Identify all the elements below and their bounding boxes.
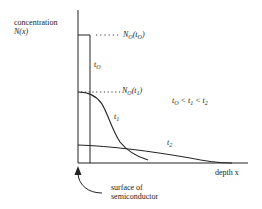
y-axis-label-line1: concentration	[14, 18, 58, 27]
y-axis-label: concentration N(x)	[14, 18, 58, 36]
surface-label-line2: semiconductor	[111, 192, 158, 201]
surface-arrow-head	[75, 166, 82, 175]
curve-label-t1: t1	[114, 112, 119, 124]
level-t0-label: NO(tO)	[123, 30, 145, 42]
t0-profile	[78, 35, 90, 163]
surface-arrow-line	[78, 174, 102, 193]
t2-profile	[78, 145, 232, 163]
y-axis-label-line2: N(x)	[14, 27, 58, 36]
surface-label: surface of semiconductor	[111, 183, 158, 201]
curve-label-t2: t2	[167, 138, 172, 150]
time-ordering-label: tO < t1 < t2	[172, 96, 208, 108]
surface-label-line1: surface of	[111, 183, 158, 192]
level-t1-label: NO(t1)	[122, 86, 142, 98]
curve-label-t0: tO	[94, 60, 101, 72]
x-axis-label: depth x	[215, 168, 239, 177]
